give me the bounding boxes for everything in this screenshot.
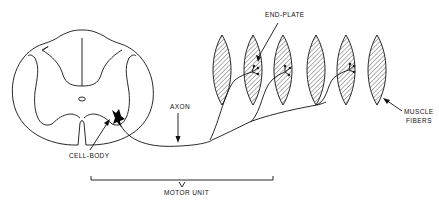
muscle-fibers [213,35,386,105]
cell-body-pointer [90,122,108,150]
spinal-cord-outline [12,30,153,145]
muscle-fibers-label-line2: FIBERS [406,117,432,124]
muscle-fiber-1 [213,35,231,105]
spinal-cord-cross-section [12,30,153,145]
axon-label: AXON [170,103,190,110]
muscle-fibers-label-line1: MUSCLE [404,108,434,115]
motor-unit-label: MOTOR UNIT [164,189,209,196]
end-plate-label: END-PLATE [265,11,305,18]
cell-body-label: CELL-BODY [69,152,110,159]
end-plate-pointer [258,23,278,58]
muscle-fiber-3 [274,35,292,105]
axon-arrowhead-icon [176,136,181,143]
muscle-fiber-6 [368,35,386,105]
central-canal [79,97,86,101]
motor-unit-diagram: END-PLATE AXON CELL-BODY MUSCLE FIBERS M… [0,0,439,202]
muscle-fiber-5 [337,35,355,105]
muscle-fiber-4 [307,35,325,105]
motor-unit-bracket [91,176,273,187]
muscle-fibers-arrowhead-icon [383,98,390,104]
axon-line [119,102,326,146]
